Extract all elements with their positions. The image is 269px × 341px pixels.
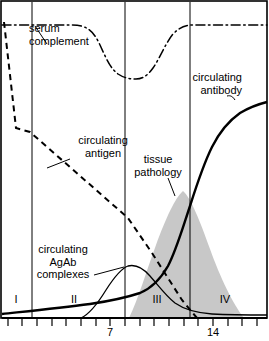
tissue-pathology-label: tissue pathology [130,153,186,178]
x-tick-label-7: 7 [98,326,122,338]
phase-label-i: I [4,293,28,305]
circulating-agab-complexes-label: circulating AgAb complexes [32,243,94,281]
phase-label-ii: II [62,293,86,305]
phase-label-iii: III [145,293,169,305]
phase-label-iv: IV [213,293,237,305]
circulating-antibody-label: circulating antibody [182,71,242,96]
circulating-antigen-label: circulating antigen [70,134,136,159]
serum-complement-label: serum complement [29,22,89,47]
immune-complex-disease-chart: serum complement circulating antigen tis… [0,0,269,341]
x-tick-label-14: 14 [201,326,225,338]
